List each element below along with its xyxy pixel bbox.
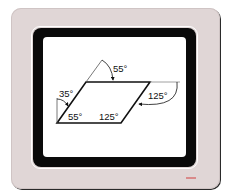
- angle-label-bottom-right: 125°: [99, 111, 119, 122]
- angle-label-right: 125°: [148, 90, 168, 101]
- angle-label-bottom-left: 55°: [68, 111, 83, 122]
- angle-label-left: 35°: [59, 88, 74, 99]
- angle-label-top: 55°: [113, 63, 128, 74]
- parallelogram-diagram: 55° 35° 55° 125° 125°: [0, 0, 228, 196]
- brand-badge: [186, 177, 196, 179]
- top-angle-arc: [102, 60, 113, 80]
- top-extension-line: [86, 60, 102, 82]
- left-angle-arc: [57, 99, 68, 106]
